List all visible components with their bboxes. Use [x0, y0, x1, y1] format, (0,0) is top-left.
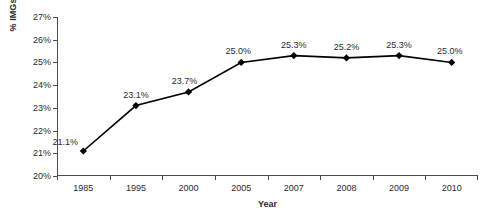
data-point-label: 25.2%	[334, 43, 360, 52]
data-point-label: 25.3%	[386, 41, 412, 50]
y-tick-label: 23%	[21, 104, 51, 113]
data-point-marker	[185, 88, 192, 95]
data-point-label: 23.1%	[123, 91, 149, 100]
x-tick-label: 2000	[179, 183, 199, 193]
data-point-marker	[238, 59, 245, 66]
y-tick-label: 20%	[21, 172, 51, 181]
x-tick-mark	[215, 176, 216, 180]
data-point-marker	[448, 59, 455, 66]
x-tick-mark	[110, 176, 111, 180]
x-tick-mark	[320, 176, 321, 180]
y-tick-mark	[53, 17, 57, 18]
x-tick-mark	[268, 176, 269, 180]
data-series	[57, 17, 478, 176]
y-tick-label: 21%	[21, 149, 51, 158]
y-tick-mark	[53, 108, 57, 109]
x-tick-label: 1995	[126, 183, 146, 193]
y-tick-label: 25%	[21, 58, 51, 67]
x-tick-mark	[425, 176, 426, 180]
x-tick-mark	[373, 176, 374, 180]
x-tick-label: 1985	[73, 183, 93, 193]
x-tick-label: 2007	[284, 183, 304, 193]
data-point-marker	[343, 54, 350, 61]
y-axis-tick-labels: 20%21%22%23%24%25%26%27%	[19, 0, 51, 214]
plot-area	[57, 17, 478, 176]
x-tick-label: 2005	[231, 183, 251, 193]
y-tick-mark	[53, 85, 57, 86]
x-tick-label: 2010	[442, 183, 462, 193]
line-chart: % IMGs 20%21%22%23%24%25%26%27% 19851995…	[0, 0, 492, 214]
y-tick-label: 26%	[21, 36, 51, 45]
y-tick-mark	[53, 40, 57, 41]
data-point-label: 23.7%	[172, 77, 198, 86]
x-tick-label: 2009	[389, 183, 409, 193]
data-point-label: 21.1%	[53, 138, 79, 147]
data-point-marker	[395, 52, 402, 59]
y-tick-label: 22%	[21, 127, 51, 136]
y-tick-label: 27%	[21, 13, 51, 22]
x-tick-label: 2008	[336, 183, 356, 193]
x-tick-mark	[57, 176, 58, 180]
x-tick-mark	[162, 176, 163, 180]
y-tick-label: 24%	[21, 81, 51, 90]
data-point-marker	[290, 52, 297, 59]
y-tick-mark	[53, 153, 57, 154]
x-axis-tick-labels: 19851995200020052007200820092010	[57, 183, 478, 195]
series-line	[83, 56, 451, 151]
x-tick-mark	[477, 176, 478, 180]
data-point-label: 25.0%	[437, 47, 463, 56]
y-tick-mark	[53, 131, 57, 132]
y-tick-mark	[53, 62, 57, 63]
x-axis-title: Year	[57, 199, 478, 209]
data-point-label: 25.3%	[281, 41, 307, 50]
data-point-label: 25.0%	[225, 47, 251, 56]
